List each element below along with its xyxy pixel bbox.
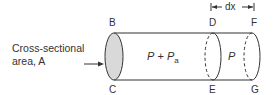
dx-label: dx — [225, 2, 236, 12]
area-pointer-arrowhead — [98, 62, 104, 67]
section-de-visible — [213, 33, 221, 80]
dx-arrowhead-right — [248, 5, 253, 9]
point-label-c: C — [109, 85, 116, 95]
cross-section-label: Cross-sectional area, A — [12, 42, 84, 68]
point-label-b: B — [109, 18, 116, 28]
section-fg-visible — [252, 33, 260, 80]
section-de-hidden — [205, 33, 213, 80]
dx-symbol: dx — [225, 1, 236, 12]
point-label-g: G — [251, 85, 259, 95]
point-label-e: E — [209, 85, 216, 95]
cross-section-label-line1: Cross-sectional — [12, 42, 84, 55]
section-fg-hidden — [244, 33, 252, 80]
dx-arrowhead-left — [212, 5, 217, 9]
cross-section-bc — [105, 33, 123, 80]
point-label-f: F — [251, 18, 257, 28]
pressure-label-left: P + Pa — [147, 51, 179, 65]
point-label-d: D — [209, 18, 216, 28]
pressure-label-right: P — [228, 51, 235, 62]
cross-section-label-line2: area, A — [12, 55, 84, 68]
